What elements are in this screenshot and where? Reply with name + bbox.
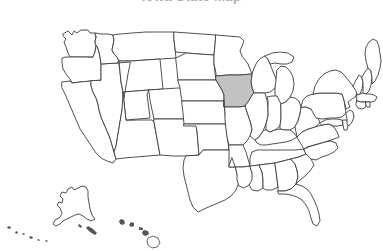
state-KS[interactable] <box>182 101 226 124</box>
state-RI[interactable] <box>366 102 370 107</box>
state-NE[interactable] <box>178 80 224 101</box>
us-states-map[interactable] <box>0 0 383 251</box>
state-NJ[interactable] <box>346 110 354 126</box>
hawaii-oahu <box>129 222 134 227</box>
state-WA[interactable] <box>63 30 96 57</box>
map-page: Iowa State Map <box>0 0 383 251</box>
state-ND[interactable] <box>174 32 216 55</box>
hawaii-big-island <box>147 236 160 248</box>
state-AK[interactable] <box>53 186 95 226</box>
alaska-panhandle-islands <box>78 224 97 235</box>
hawaii-kauai <box>119 219 125 225</box>
hawaii-molokai <box>139 227 143 230</box>
state-MN[interactable] <box>214 35 252 76</box>
state-MA[interactable] <box>357 93 377 102</box>
state-CT[interactable] <box>356 101 366 109</box>
state-HI[interactable] <box>119 219 160 248</box>
state-IN[interactable] <box>266 96 281 132</box>
alaska-aleutian-islands <box>7 226 48 242</box>
state-MT[interactable] <box>112 32 176 61</box>
state-SD[interactable] <box>176 53 216 80</box>
state-NH[interactable] <box>362 68 372 94</box>
hawaii-maui <box>142 230 149 236</box>
state-MD[interactable] <box>320 119 343 126</box>
